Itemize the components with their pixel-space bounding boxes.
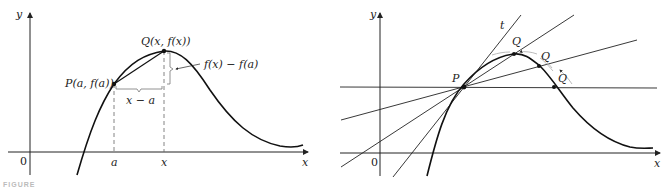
left-x-label: x: [302, 156, 309, 169]
rise-brace: [167, 53, 173, 84]
right-point-q2: [537, 64, 541, 68]
secant-line-shallow: [341, 40, 637, 120]
tick-x-label: x: [161, 156, 168, 169]
run-brace: [116, 86, 162, 92]
right-origin-label: 0: [371, 156, 378, 169]
right-point-p: [462, 85, 467, 90]
rise-label: f(x) − f(a): [203, 58, 258, 71]
right-point-q1: [512, 52, 516, 56]
right-figure: y x 0 P Q Q Q t: [340, 8, 661, 177]
right-function-curve: [427, 54, 653, 176]
tangent-label: t: [500, 19, 505, 32]
right-p-label: P: [451, 72, 460, 85]
figure-caption: FIGURE: [3, 181, 35, 188]
right-q2-label: Q: [541, 50, 550, 63]
left-point-q: [162, 49, 166, 53]
right-y-label: y: [369, 8, 377, 21]
tick-a-label: a: [111, 156, 118, 169]
left-q-label: Q(x, f(x)): [141, 35, 191, 48]
secant-line-horizontal: [340, 87, 657, 88]
rise-pointer-arrow: [176, 64, 200, 69]
left-figure: y x 0 P(a, f(a)) Q(x, f(x)) f(x) − f(a) …: [8, 8, 309, 175]
figure-canvas: y x 0 P(a, f(a)) Q(x, f(x)) f(x) − f(a) …: [0, 0, 669, 189]
left-y-label: y: [15, 8, 23, 21]
right-q1-label: Q: [512, 35, 521, 48]
left-origin-label: 0: [20, 155, 27, 168]
approach-arrow-1: [520, 52, 537, 54]
right-q3-label: Q: [558, 72, 567, 85]
run-label: x − a: [126, 94, 155, 107]
left-p-label: P(a, f(a)): [64, 77, 114, 90]
secant-line-pq: [114, 51, 164, 84]
right-point-q3: [552, 85, 556, 89]
right-x-label: x: [654, 157, 661, 170]
